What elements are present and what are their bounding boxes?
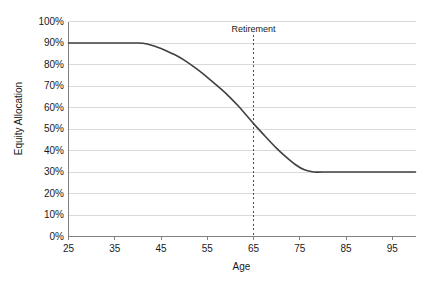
x-axis-tick-label: 45 xyxy=(144,243,178,255)
y-axis-tick-label: 40% xyxy=(26,146,64,156)
y-axis-tick-label: 30% xyxy=(26,167,64,177)
y-axis-tick-label: 100% xyxy=(26,17,64,27)
y-axis-tick-label: 90% xyxy=(26,38,64,48)
x-axis-tick-marks xyxy=(69,237,393,241)
x-axis-title: Age xyxy=(68,261,415,272)
y-axis-tick-label: 50% xyxy=(26,124,64,134)
y-axis-tick-label: 60% xyxy=(26,103,64,113)
retirement-marker-label: Retirement xyxy=(204,24,304,34)
x-axis-tick-label: 35 xyxy=(98,243,132,255)
x-axis-tick-label: 75 xyxy=(283,243,317,255)
x-axis-tick-label: 85 xyxy=(329,243,363,255)
y-axis-tick-label: 20% xyxy=(26,189,64,199)
gridlines xyxy=(69,22,416,237)
y-axis-tick-label: 0% xyxy=(26,232,64,242)
y-axis-tick-label: 10% xyxy=(26,210,64,220)
equity-allocation-chart: Equity Allocation Age 0%10%20%30%40%50%6… xyxy=(0,0,431,282)
x-axis-tick-label: 55 xyxy=(190,243,224,255)
y-axis-tick-label: 80% xyxy=(26,60,64,70)
x-axis-tick-label: 25 xyxy=(52,243,86,255)
x-axis-tick-label: 65 xyxy=(237,243,271,255)
plot-surface xyxy=(0,0,431,282)
x-axis-tick-label: 95 xyxy=(375,243,409,255)
y-axis-tick-label: 70% xyxy=(26,81,64,91)
